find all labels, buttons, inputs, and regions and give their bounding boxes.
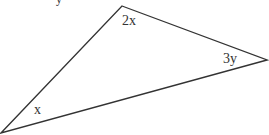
cropped-text-fragment: y bbox=[56, 0, 62, 6]
angle-label-right: 3y bbox=[223, 51, 237, 66]
angle-label-bottom-left: x bbox=[34, 102, 41, 117]
triangle-diagram: y 2x 3y x bbox=[0, 0, 269, 135]
angle-label-top: 2x bbox=[122, 13, 136, 28]
